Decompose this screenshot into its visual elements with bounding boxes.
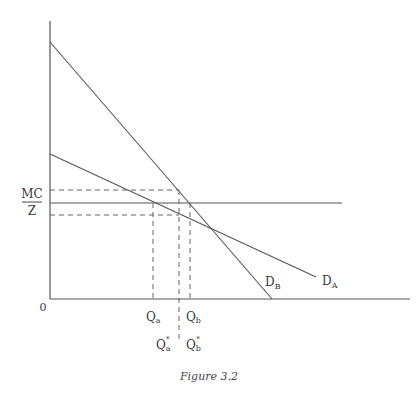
label-qb: Qb [186, 310, 201, 325]
label-da: DA [322, 274, 338, 290]
y-label-numerator: MC [21, 187, 42, 201]
label-qb-star: Qb* [186, 335, 201, 353]
demand-curve-b [50, 42, 272, 299]
y-label-denominator: Z [28, 204, 36, 218]
label-qa-star: Qa* [156, 335, 171, 353]
label-qa: Qa [146, 310, 161, 325]
origin-label: 0 [40, 301, 47, 314]
figure-caption: Figure 3.2 [179, 370, 238, 383]
figure-diagram: MC Z 0 DB DA Qa Qb Qa* Qb* Figure 3.2 [0, 0, 418, 394]
label-db: DB [265, 275, 281, 291]
